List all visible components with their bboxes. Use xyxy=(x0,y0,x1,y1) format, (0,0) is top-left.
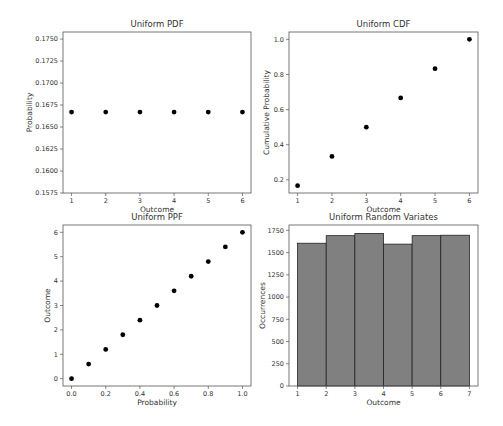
x-tick-label: 5 xyxy=(433,197,437,205)
data-point xyxy=(103,347,108,352)
uniform-cdf-chart: 1234560.20.40.60.81.0Uniform CDFOutcomeC… xyxy=(262,19,478,214)
y-tick-label: 0.2 xyxy=(274,176,284,184)
y-tick-label: 750 xyxy=(272,316,284,324)
data-point xyxy=(120,332,125,337)
data-point xyxy=(223,245,228,250)
data-point xyxy=(240,110,245,115)
x-tick-label: 5 xyxy=(206,197,210,205)
histogram-bar xyxy=(412,236,441,386)
x-tick-label: 2 xyxy=(324,390,328,398)
x-tick-label: 0.4 xyxy=(135,390,145,398)
x-tick-label: 6 xyxy=(240,197,244,205)
y-tick-label: 500 xyxy=(272,338,284,346)
data-point xyxy=(138,318,143,323)
x-tick-label: 2 xyxy=(330,197,334,205)
y-tick-label: 1750 xyxy=(267,227,284,235)
data-point xyxy=(172,110,177,115)
data-point xyxy=(155,303,160,308)
x-tick-label: 4 xyxy=(381,390,385,398)
y-tick-label: 250 xyxy=(272,360,284,368)
y-tick-label: 0.1675 xyxy=(35,101,58,109)
y-tick-label: 0.1725 xyxy=(35,57,58,65)
x-tick-label: 1 xyxy=(69,197,73,205)
uniform-pdf-chart: 1234560.15750.16000.16250.16500.16750.17… xyxy=(25,19,251,214)
data-point xyxy=(206,259,211,264)
y-axis-label: Outcome xyxy=(43,288,52,323)
x-tick-label: 2 xyxy=(104,197,108,205)
x-tick-label: 1 xyxy=(296,390,300,398)
histogram-bar xyxy=(326,236,355,386)
chart-title: Uniform PDF xyxy=(130,19,183,29)
x-tick-label: 4 xyxy=(172,197,176,205)
histogram-bar xyxy=(384,244,413,386)
y-axis-label: Probability xyxy=(25,92,34,132)
data-point xyxy=(86,362,91,367)
x-tick-label: 1.0 xyxy=(237,390,247,398)
histogram-bar xyxy=(298,243,327,386)
uniform-histogram-chart: 123456702505007501000125015001750Uniform… xyxy=(258,212,478,407)
data-point xyxy=(189,274,194,279)
y-tick-label: 1 xyxy=(54,351,58,359)
x-tick-label: 3 xyxy=(353,390,357,398)
y-tick-label: 0.4 xyxy=(274,141,284,149)
x-tick-label: 5 xyxy=(410,390,414,398)
axes-frame xyxy=(63,32,251,193)
x-tick-label: 0.0 xyxy=(66,390,76,398)
histogram-bar xyxy=(441,235,470,386)
chart-title: Uniform Random Variates xyxy=(329,212,438,222)
data-point xyxy=(467,37,472,42)
y-axis-label: Occurrences xyxy=(258,282,267,329)
x-tick-label: 3 xyxy=(138,197,142,205)
x-axis-label: Outcome xyxy=(366,398,401,407)
x-tick-label: 1 xyxy=(296,197,300,205)
x-axis-label: Probability xyxy=(137,398,177,407)
y-tick-label: 0.1650 xyxy=(35,123,58,131)
y-tick-label: 0.8 xyxy=(274,71,284,79)
y-tick-label: 0.1700 xyxy=(35,79,58,87)
x-tick-label: 0.6 xyxy=(169,390,179,398)
x-tick-label: 0.8 xyxy=(203,390,213,398)
y-tick-label: 1.0 xyxy=(274,36,284,44)
data-point xyxy=(398,95,403,100)
y-tick-label: 3 xyxy=(54,302,58,310)
figure: 1234560.15750.16000.16250.16500.16750.17… xyxy=(0,0,503,426)
x-tick-label: 0.2 xyxy=(101,390,111,398)
axes-frame xyxy=(289,32,478,193)
data-point xyxy=(138,110,143,115)
data-point xyxy=(330,154,335,159)
data-point xyxy=(433,66,438,71)
y-tick-label: 2 xyxy=(54,326,58,334)
chart-title: Uniform CDF xyxy=(357,19,411,29)
y-tick-label: 0.6 xyxy=(274,106,284,114)
y-tick-label: 0 xyxy=(280,382,284,390)
y-tick-label: 4 xyxy=(54,277,58,285)
x-tick-label: 7 xyxy=(467,390,471,398)
x-tick-label: 6 xyxy=(467,197,471,205)
y-tick-label: 6 xyxy=(54,229,58,237)
chart-title: Uniform PPF xyxy=(131,212,183,222)
y-tick-label: 0.1625 xyxy=(35,145,58,153)
histogram-bar xyxy=(355,233,384,386)
y-tick-label: 1250 xyxy=(267,271,284,279)
y-tick-label: 1500 xyxy=(267,249,284,257)
uniform-ppf-chart: 0.00.20.40.60.81.00123456Uniform PPFProb… xyxy=(43,212,251,407)
y-tick-label: 0.1600 xyxy=(35,167,58,175)
data-point xyxy=(240,230,245,235)
x-tick-label: 6 xyxy=(439,390,443,398)
x-tick-label: 4 xyxy=(399,197,403,205)
data-point xyxy=(69,110,74,115)
y-axis-label: Cumulative Probability xyxy=(262,70,271,155)
y-tick-label: 0 xyxy=(54,375,58,383)
x-tick-label: 3 xyxy=(364,197,368,205)
y-tick-label: 0.1575 xyxy=(35,189,58,197)
data-point xyxy=(103,110,108,115)
data-point xyxy=(206,110,211,115)
y-tick-label: 1000 xyxy=(267,293,284,301)
y-tick-label: 5 xyxy=(54,253,58,261)
data-point xyxy=(69,376,74,381)
y-tick-label: 0.1750 xyxy=(35,35,58,43)
data-point xyxy=(295,183,300,188)
data-point xyxy=(172,288,177,293)
data-point xyxy=(364,125,369,130)
